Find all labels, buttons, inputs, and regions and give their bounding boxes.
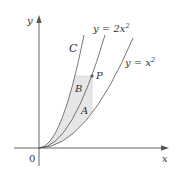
- y-axis-arrow-icon: [36, 15, 41, 23]
- origin-label: 0: [29, 153, 35, 164]
- region-a-label: A: [80, 105, 88, 116]
- region-b-label: B: [74, 83, 82, 94]
- x-axis-label: x: [162, 153, 168, 164]
- curve-c-label: C: [69, 42, 78, 55]
- point-p-marker: [90, 74, 93, 77]
- curve-y-2x2-label-exp: 2: [124, 22, 129, 30]
- point-p-label: P: [95, 70, 103, 81]
- y-axis-label: y: [26, 15, 33, 26]
- curve-y-2x2-label-base: y = 2x: [92, 23, 126, 34]
- diagram-canvas: y x 0 C y = 2x2 y = x2 P B A: [0, 0, 180, 178]
- curve-y-x2-label-base: y = x: [124, 57, 151, 68]
- curve-y-2x2-label: y = 2x2: [92, 22, 130, 34]
- curve-y-x2-label: y = x2: [124, 56, 155, 68]
- x-axis-arrow-icon: [161, 145, 169, 150]
- curve-y-x2-label-exp: 2: [150, 56, 155, 64]
